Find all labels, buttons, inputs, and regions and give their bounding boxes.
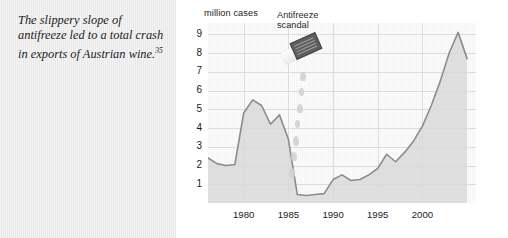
y-axis-tick-label: 7: [186, 65, 202, 76]
figure-root: The slippery slope of antifreeze led to …: [0, 0, 508, 238]
y-axis-tick-label: 8: [186, 47, 202, 58]
x-axis-tick-label: 2000: [402, 209, 442, 220]
series-area-chart: [208, 23, 476, 203]
x-axis-tick-label: 1995: [358, 209, 398, 220]
caption-panel: The slippery slope of antifreeze led to …: [0, 0, 176, 238]
antifreeze-drop-icon: [295, 120, 300, 128]
caption-line-4: wine.: [129, 48, 156, 62]
antifreeze-bottle-icon: [280, 36, 326, 70]
y-axis-tick-label: 5: [186, 103, 202, 114]
antifreeze-drop-icon: [293, 136, 299, 146]
bottle-label-icon: [290, 32, 323, 60]
x-axis-tick-label: 1980: [224, 209, 264, 220]
y-axis-tick-label: 6: [186, 84, 202, 95]
antifreeze-drop-icon: [289, 168, 295, 178]
x-axis-tick-label: 1990: [313, 209, 353, 220]
antifreeze-drop-icon: [300, 72, 306, 81]
antifreeze-drop-icon: [291, 152, 297, 161]
antifreeze-drop-icon: [299, 88, 304, 96]
y-axis-tick-label: 2: [186, 159, 202, 170]
chart-panel: million cases 123456789 1980198519901995…: [176, 0, 508, 238]
y-axis-tick-label: 4: [186, 122, 202, 133]
caption-text: The slippery slope of antifreeze led to …: [18, 13, 170, 63]
antifreeze-drop-icon: [297, 104, 303, 113]
y-axis-tick-label: 3: [186, 140, 202, 151]
y-axis-tick-label: 1: [186, 178, 202, 189]
caption-line-1: The slippery slope of: [18, 13, 122, 27]
y-axis-title: million cases: [204, 8, 258, 18]
caption-line-2: antifreeze led to a total: [18, 28, 132, 42]
plot-area: [208, 23, 476, 203]
caption-footnote-marker: 35: [155, 46, 163, 55]
y-axis-tick-label: 9: [186, 28, 202, 39]
x-axis-tick-label: 1985: [268, 209, 308, 220]
annotation-antifreeze-scandal-label: Antifreeze scandal: [277, 10, 318, 31]
